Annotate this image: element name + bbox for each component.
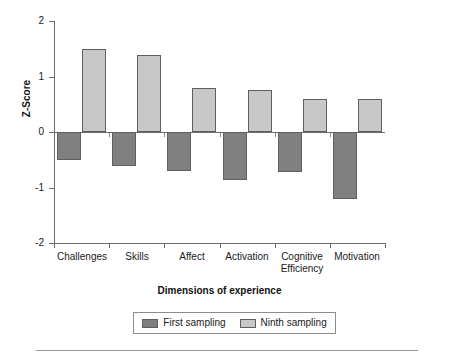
y-tick-label: 2 (10, 16, 44, 26)
bars-layer (54, 21, 385, 243)
bar-affect-ninth-sampling (192, 88, 216, 132)
x-tick-mark (164, 243, 165, 248)
bar-challenges-first-sampling (57, 132, 81, 160)
bar-affect-first-sampling (167, 132, 191, 171)
legend-label: Ninth sampling (261, 318, 327, 328)
y-axis-title: Z-Score (21, 64, 32, 134)
bar-motivation-first-sampling (333, 132, 357, 199)
x-tick-mark (54, 243, 55, 248)
bar-cognitive-efficiency-ninth-sampling (303, 99, 327, 132)
x-tick-mark (220, 243, 221, 248)
x-tick-mark (275, 243, 276, 248)
bar-activation-ninth-sampling (248, 90, 272, 132)
y-tick-label: -2 (10, 238, 44, 248)
legend-label: First sampling (163, 318, 225, 328)
legend-entry: First sampling (142, 318, 225, 328)
legend-swatch-icon (240, 319, 256, 328)
figure-bar-chart-z-scores: 210-1-2 Z-Score ChallengesSkillsAffectAc… (0, 0, 454, 359)
bar-motivation-ninth-sampling (358, 99, 382, 132)
chart-legend: First samplingNinth sampling (133, 312, 336, 334)
x-tick-mark (109, 243, 110, 248)
footer-divider (36, 350, 418, 351)
legend-swatch-icon (142, 319, 158, 328)
category-label: Motivation (317, 251, 397, 263)
bar-challenges-ninth-sampling (82, 49, 106, 132)
bar-skills-ninth-sampling (137, 55, 161, 132)
x-tick-mark (330, 243, 331, 248)
y-tick-label: -1 (10, 183, 44, 193)
bar-cognitive-efficiency-first-sampling (278, 132, 302, 172)
x-tick-mark (385, 243, 386, 248)
x-axis-title: Dimensions of experience (54, 285, 385, 296)
bar-activation-first-sampling (223, 132, 247, 180)
legend-entry: Ninth sampling (240, 318, 327, 328)
bar-skills-first-sampling (112, 132, 136, 166)
